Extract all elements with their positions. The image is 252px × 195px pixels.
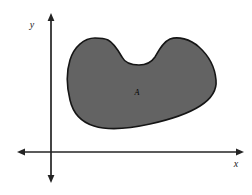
figure-container: A y x [0, 0, 252, 195]
coordinate-plane-figure: A y x [0, 0, 252, 195]
y-axis-label: y [29, 19, 35, 30]
x-axis-left-arrowhead [17, 149, 25, 156]
x-axis-right-arrowhead [236, 149, 244, 156]
shaded-region-a [67, 38, 216, 129]
y-axis-up-arrowhead [48, 13, 55, 21]
y-axis-group [48, 13, 55, 183]
y-axis-down-arrowhead [48, 175, 55, 183]
region-label-a: A [134, 88, 140, 97]
x-axis-label: x [233, 158, 239, 169]
